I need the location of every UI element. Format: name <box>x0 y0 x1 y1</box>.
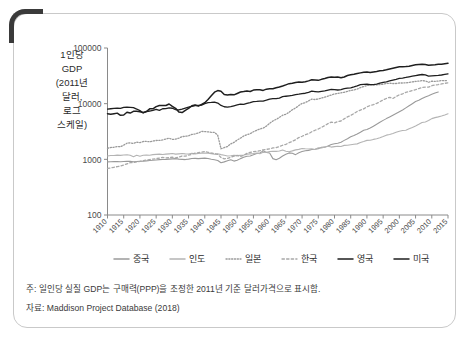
x-tick-label: 1970 <box>285 217 303 235</box>
figure-source: 자료: Maddison Project Database (2018) <box>26 303 180 313</box>
legend-label-한국[interactable]: 한국 <box>301 254 317 264</box>
x-tick-label: 1935 <box>172 217 190 235</box>
x-tick-label: 1915 <box>107 217 125 235</box>
x-tick-label: 1995 <box>366 217 384 235</box>
series-line-인도 <box>108 114 449 157</box>
x-tick-label: 2000 <box>383 217 401 235</box>
series-lines <box>108 63 449 168</box>
chart-canvas: 1인당GDP(2011년달러,로그스케일) 100000100001000100… <box>0 0 471 341</box>
figure-note: 주: 일인당 실질 GDP는 구매력(PPP)을 조정한 2011년 기준 달러… <box>26 283 320 294</box>
legend-label-인도[interactable]: 인도 <box>189 254 205 264</box>
x-tick-label: 2005 <box>399 217 417 235</box>
series-line-일본 <box>108 80 449 148</box>
x-tick-label: 2015 <box>431 217 449 235</box>
legend-label-미국[interactable]: 미국 <box>413 254 429 264</box>
x-tick-label: 1975 <box>302 217 320 235</box>
series-line-한국 <box>108 83 449 168</box>
legend-label-영국[interactable]: 영국 <box>357 254 373 264</box>
x-tick-label: 1990 <box>350 217 368 235</box>
figure-notes: 주: 일인당 실질 GDP는 구매력(PPP)을 조정한 2011년 기준 달러… <box>26 283 320 313</box>
y-tick-label: 100000 <box>73 43 102 53</box>
x-tick-label: 1985 <box>334 217 352 235</box>
x-axis-ticks: 1910191519201925193019351940194519501955… <box>91 215 450 235</box>
y-axis-title-line: GDP <box>62 63 83 74</box>
x-tick-label: 1925 <box>139 217 157 235</box>
legend-label-중국[interactable]: 중국 <box>133 254 149 264</box>
gdp-per-capita-chart: 1인당GDP(2011년달러,로그스케일) 100000100001000100… <box>0 0 471 341</box>
x-tick-label: 1945 <box>204 217 222 235</box>
x-tick-label: 1955 <box>237 217 255 235</box>
y-axis-title-line: 스케일) <box>57 119 87 130</box>
y-tick-label: 10000 <box>78 99 102 109</box>
y-axis-title-line: (2011년 <box>56 77 89 88</box>
x-tick-label: 1965 <box>269 217 287 235</box>
series-line-중국 <box>108 92 439 163</box>
legend-label-일본[interactable]: 일본 <box>245 254 261 264</box>
x-tick-label: 1920 <box>123 217 141 235</box>
y-tick-label: 1000 <box>83 155 102 165</box>
x-tick-label: 1930 <box>156 217 174 235</box>
x-tick-label: 1950 <box>220 217 238 235</box>
x-tick-label: 1980 <box>318 217 336 235</box>
chart-legend[interactable]: 중국인도일본한국영국미국 <box>114 254 429 264</box>
y-axis-title: 1인당GDP(2011년달러,로그스케일) <box>56 49 89 130</box>
x-tick-label: 1940 <box>188 217 206 235</box>
series-line-영국 <box>108 74 449 113</box>
x-tick-label: 1960 <box>253 217 271 235</box>
x-tick-label: 2010 <box>415 217 433 235</box>
series-line-미국 <box>108 63 449 115</box>
